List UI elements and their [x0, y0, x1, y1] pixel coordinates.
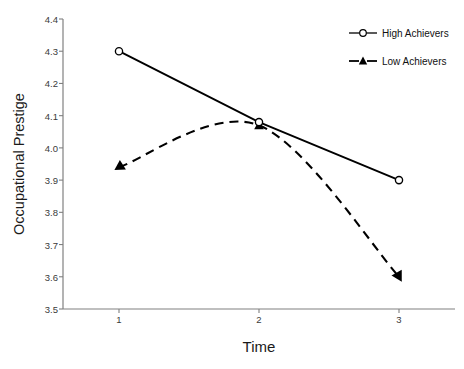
x-tick-label: 2: [244, 314, 274, 325]
chart-figure: Occupational Prestige 4.44.34.24.14.03.9…: [0, 0, 464, 369]
x-tick-label: 1: [104, 314, 134, 325]
legend-item-high-achievers: High Achievers: [348, 26, 460, 40]
legend-item-low-achievers: Low Achievers: [348, 54, 460, 68]
data-point-marker-triangle: [111, 160, 125, 175]
legend-label-low-achievers: Low Achievers: [382, 56, 446, 67]
legend-key-open-circle-icon: [348, 26, 378, 40]
legend-key-filled-triangle-icon: [348, 54, 378, 68]
data-point-marker-circle: [395, 177, 402, 184]
data-point-marker-circle: [255, 119, 262, 126]
x-tick-label: 3: [384, 314, 414, 325]
chart-legend: High Achievers Low Achievers: [348, 26, 460, 82]
series-low-achievers: [111, 121, 406, 285]
data-point-marker-circle: [115, 48, 122, 55]
legend-label-high-achievers: High Achievers: [382, 28, 449, 39]
x-axis-title: Time: [63, 338, 455, 355]
